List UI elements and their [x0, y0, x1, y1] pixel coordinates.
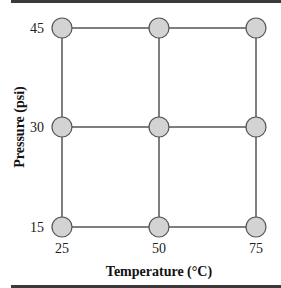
x-tick-75: 75 — [249, 241, 263, 256]
y-tick-30: 30 — [30, 120, 44, 135]
y-tick-45: 45 — [30, 21, 44, 36]
point-50-45 — [149, 18, 169, 38]
point-75-45 — [246, 18, 266, 38]
x-tick-50: 50 — [152, 241, 166, 256]
point-50-15 — [149, 217, 169, 237]
x-axis-ticks: 25 50 75 — [55, 241, 263, 256]
point-25-15 — [52, 217, 72, 237]
y-axis-ticks: 45 30 15 — [30, 21, 44, 235]
x-tick-25: 25 — [55, 241, 69, 256]
point-25-30 — [52, 117, 72, 137]
y-axis-label: Pressure (psi) — [12, 86, 28, 168]
x-axis-label: Temperature (°C) — [106, 264, 213, 280]
design-grid-diagram: 45 30 15 25 50 75 Temperature (°C) Press… — [0, 0, 281, 288]
point-75-30 — [246, 117, 266, 137]
y-tick-15: 15 — [30, 220, 44, 235]
point-50-30 — [149, 117, 169, 137]
point-75-15 — [246, 217, 266, 237]
point-25-45 — [52, 18, 72, 38]
